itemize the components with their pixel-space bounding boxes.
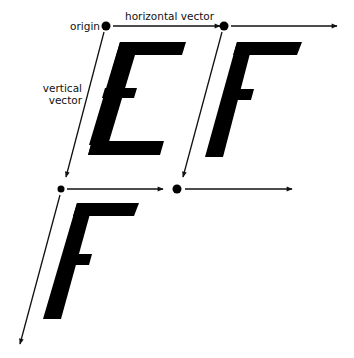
glyph-f-top bbox=[205, 42, 302, 157]
glyph-e bbox=[88, 42, 186, 155]
vertical-vector-label-line1: vertical bbox=[43, 82, 82, 94]
horizontal-vector-label: horizontal vector bbox=[125, 10, 215, 22]
row2-vertical-vector-arrow bbox=[20, 195, 60, 344]
glyph-vector-diagram: origin horizontal vector vertical vector bbox=[0, 0, 354, 358]
origin-dot-4 bbox=[173, 185, 182, 194]
glyph-f-bottom bbox=[43, 203, 139, 319]
origin-label: origin bbox=[70, 20, 100, 32]
origin-dot bbox=[102, 22, 111, 31]
origin-dot-2 bbox=[220, 22, 229, 31]
vertical-vector-label-line2: vector bbox=[49, 94, 83, 106]
origin-dot-3 bbox=[58, 186, 65, 193]
